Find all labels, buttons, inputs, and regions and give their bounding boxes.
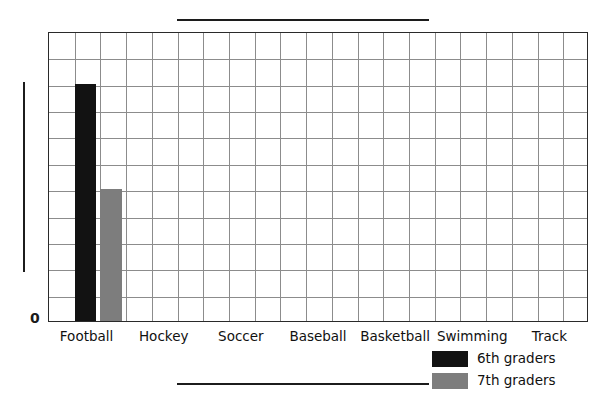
- x-axis-label-track: Track: [532, 326, 567, 346]
- legend-label: 6th graders: [477, 352, 556, 366]
- plot-area: [48, 32, 588, 322]
- bar-football-6th-graders: [75, 84, 97, 321]
- bar-football-7th-graders: [100, 189, 122, 321]
- x-axis-label-basketball: Basketball: [360, 326, 430, 346]
- legend-label: 7th graders: [477, 374, 556, 388]
- y-axis-label-redaction-bar: [23, 82, 25, 272]
- chart-title-redaction-bar: [177, 19, 429, 21]
- x-axis-label-football: Football: [60, 326, 113, 346]
- x-axis-label-soccer: Soccer: [218, 326, 264, 346]
- legend-item-6th-graders: 6th graders: [432, 349, 556, 369]
- x-axis-category-labels: FootballHockeySoccerBaseballBasketballSw…: [48, 326, 588, 348]
- x-axis-label-baseball: Baseball: [289, 326, 346, 346]
- chart-legend: 6th graders7th graders: [432, 349, 556, 393]
- x-axis-label-swimming: Swimming: [437, 326, 508, 346]
- legend-item-7th-graders: 7th graders: [432, 371, 556, 391]
- x-axis-label-redaction-bar: [177, 383, 429, 385]
- legend-swatch-icon: [432, 351, 468, 367]
- y-axis-zero-tick-label: 0: [30, 311, 40, 325]
- bars-layer: [49, 33, 587, 321]
- x-axis-label-hockey: Hockey: [139, 326, 188, 346]
- bar-chart-figure: 0 FootballHockeySoccerBaseballBasketball…: [0, 0, 613, 410]
- legend-swatch-icon: [432, 373, 468, 389]
